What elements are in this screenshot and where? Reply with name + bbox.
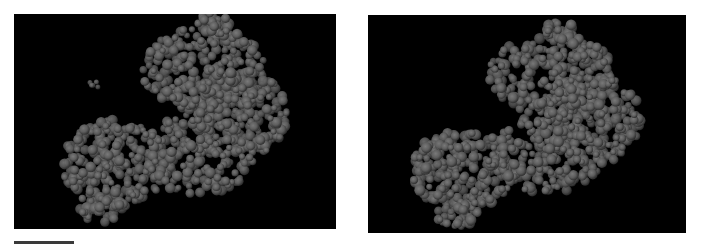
left-stereo-view: Left view: [14, 14, 336, 229]
molecule-render-right: [368, 15, 686, 233]
right-stereo-view: Right view: [368, 15, 686, 233]
molecule-render-left: [14, 14, 336, 229]
scale-bar: scale bar: [14, 241, 74, 244]
